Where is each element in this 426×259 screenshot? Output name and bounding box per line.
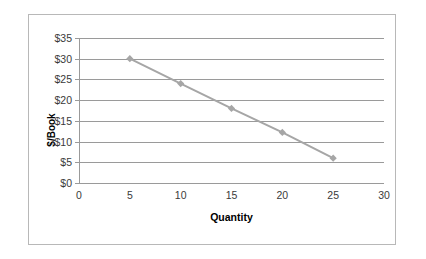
data-point-marker xyxy=(330,155,337,162)
x-axis-tick-label: 25 xyxy=(327,190,339,201)
y-axis-tick-label: $15 xyxy=(54,116,72,127)
gridline xyxy=(79,183,384,184)
x-axis-tick-label: 30 xyxy=(378,190,390,201)
data-point-marker xyxy=(126,55,133,62)
x-axis-tick-label: 20 xyxy=(276,190,288,201)
y-axis-tick-mark xyxy=(75,183,79,184)
y-axis-tick-label: $30 xyxy=(54,53,72,64)
chart-frame: $/Book $0$5$10$15$20$25$30$35 0510152025… xyxy=(28,14,396,245)
x-axis-tick-label: 0 xyxy=(76,190,82,201)
data-point-marker xyxy=(177,80,184,87)
y-axis-tick-label: $0 xyxy=(60,178,72,189)
x-axis-tick-label: 15 xyxy=(226,190,238,201)
x-axis-tick-label: 10 xyxy=(175,190,187,201)
y-axis-tick-label: $10 xyxy=(54,136,72,147)
x-axis-tick-label: 5 xyxy=(127,190,133,201)
y-axis-tick-label: $25 xyxy=(54,74,72,85)
data-point-marker xyxy=(228,105,235,112)
y-axis-tick-label: $5 xyxy=(60,157,72,168)
data-point-marker xyxy=(279,129,286,136)
y-axis-tick-label: $20 xyxy=(54,95,72,106)
x-axis-title: Quantity xyxy=(79,211,384,223)
plot-area: $0$5$10$15$20$25$30$35 051015202530 xyxy=(79,38,384,183)
data-series-line xyxy=(79,38,384,183)
y-axis-tick-label: $35 xyxy=(54,33,72,44)
